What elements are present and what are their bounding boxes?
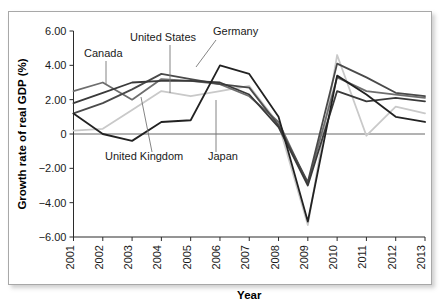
annotation-label-united-kingdom: United Kingdom xyxy=(105,150,183,162)
annotation-label-united-states: United States xyxy=(130,31,197,43)
x-tick-label: 2003 xyxy=(122,245,134,269)
y-tick-label: −4.00 xyxy=(39,197,67,209)
y-tick-label: −6.00 xyxy=(39,231,67,243)
figure-root: 6.004.002.000−2.00−4.00−6.00200120022003… xyxy=(0,0,447,303)
x-tick-label: 2012 xyxy=(386,245,398,269)
y-tick-label: 4.00 xyxy=(45,59,66,71)
annotation-leader-germany xyxy=(196,40,216,67)
y-tick-label: −2.00 xyxy=(39,162,67,174)
x-tick-label: 2006 xyxy=(210,245,222,269)
series-line-united-states xyxy=(74,64,426,182)
x-tick-label: 2011 xyxy=(356,245,368,269)
x-tick-label: 2007 xyxy=(239,245,251,269)
annotation-label-germany: Germany xyxy=(213,25,259,37)
y-tick-label: 0 xyxy=(60,128,66,140)
annotation-label-canada: Canada xyxy=(84,47,123,59)
annotation-label-japan: Japan xyxy=(208,150,238,162)
x-tick-label: 2008 xyxy=(269,245,281,269)
x-tick-label: 2001 xyxy=(64,245,76,269)
x-tick-label: 2010 xyxy=(327,245,339,269)
x-tick-label: 2005 xyxy=(181,245,193,269)
x-tick-label: 2013 xyxy=(415,245,427,269)
x-axis-title: Year xyxy=(237,289,262,301)
y-tick-label: 6.00 xyxy=(45,25,66,37)
y-tick-label: 2.00 xyxy=(45,94,66,106)
y-axis-title: Growth rate of real GDP (%) xyxy=(16,58,28,209)
x-tick-label: 2002 xyxy=(93,245,105,269)
annotation-leader-united-kingdom xyxy=(141,97,152,152)
x-tick-label: 2009 xyxy=(298,245,310,269)
gdp-growth-line-chart: 6.004.002.000−2.00−4.00−6.00200120022003… xyxy=(0,0,447,303)
x-tick-label: 2004 xyxy=(151,245,163,269)
